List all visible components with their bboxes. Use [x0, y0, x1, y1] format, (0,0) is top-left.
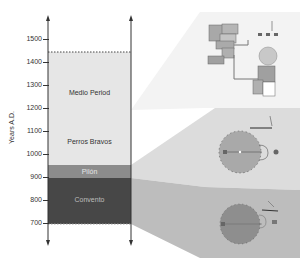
convento-projection-panel: [131, 178, 300, 258]
pilon-label: Pilón: [48, 168, 131, 176]
right-axis-arrow-down-icon: [129, 240, 133, 246]
tick-mark: [43, 131, 49, 132]
left-axis-arrow-up-icon: [46, 15, 50, 21]
tick-mark: [43, 85, 49, 86]
tick-mark: [43, 177, 49, 178]
tick-label: 1300: [10, 81, 42, 89]
tick-mark: [43, 154, 49, 155]
y-axis-label: Years A.D.: [8, 103, 15, 153]
medio-period-band: [48, 52, 131, 165]
perros-projection-panel: [131, 108, 300, 190]
tick-mark: [43, 39, 49, 40]
tick-label: 1100: [10, 127, 42, 135]
diagram-canvas: [0, 0, 302, 268]
right-axis-arrow-up-icon: [129, 15, 133, 21]
tick-label: 1400: [10, 58, 42, 66]
tick-mark: [43, 62, 49, 63]
medio-period-label: Medio Period: [48, 89, 131, 97]
convento-label: Convento: [48, 196, 131, 204]
tick-label: 700: [10, 219, 42, 227]
left-axis-arrow-down-icon: [46, 240, 50, 246]
tick-label: 900: [10, 173, 42, 181]
tick-label: 800: [10, 196, 42, 204]
perros-bravos-label: Perros Bravos: [48, 138, 131, 146]
tick-label: 1200: [10, 104, 42, 112]
tick-mark: [43, 223, 49, 224]
tick-mark: [43, 108, 49, 109]
tick-label: 1000: [10, 150, 42, 158]
tick-label: 1500: [10, 35, 42, 43]
